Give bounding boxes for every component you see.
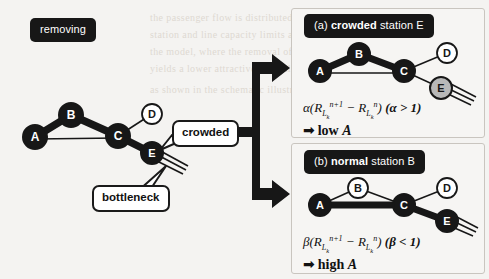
panel-b-node-E: E [436, 210, 458, 232]
panel-b-node-C: C [393, 194, 415, 216]
panel-a-formula-condition: (α > 1) [385, 100, 421, 115]
panel-b-conclusion-prefix: high [318, 257, 344, 272]
panel-b-conclusion: ➡high A [303, 256, 421, 273]
main-edge-spine [35, 115, 152, 153]
branching-arrow-shape [237, 54, 290, 208]
figure-root: the passenger flow is distributed over t… [0, 0, 489, 279]
paren-close: ) [378, 100, 382, 115]
panel-b-node-C-label: C [400, 199, 408, 211]
panel-a-node-B: B [348, 43, 370, 65]
main-node-D: D [142, 104, 162, 124]
panel-b-node-A-label: A [316, 199, 324, 211]
panel-a-graph: A B C D E [309, 43, 476, 105]
panel-a-node-D: D [437, 43, 457, 63]
Lk-sub: Lk [322, 109, 329, 118]
panel-b-node-B-label: B [354, 182, 362, 194]
main-graph: A B C D E [23, 103, 188, 174]
arrow-icon-b: ➡ [303, 256, 315, 272]
panel-a-formula-expression: α(RLkn+1 − RLkn) (α > 1) [303, 100, 421, 115]
R-symbol-b2: R [358, 234, 366, 249]
Lk-sub-b2: Lk [366, 243, 373, 252]
main-node-A-label: A [31, 130, 40, 144]
panel-b-graph: A B C D E [309, 178, 478, 236]
bottleneck-callout: bottleneck [92, 185, 170, 212]
panel-a-node-A-label: A [316, 65, 324, 77]
panel-a-conclusion-var: A [342, 123, 351, 138]
panel-b-edge-spine [320, 205, 447, 221]
arrow-icon: ➡ [303, 122, 315, 138]
main-node-C: C [106, 124, 130, 148]
crowded-callout: crowded [172, 120, 239, 147]
Lk-sub-2: Lk [366, 109, 373, 118]
panel-b-formula-condition: (β < 1) [385, 234, 421, 249]
np1-sup-b: n+1 [329, 234, 342, 243]
R-symbol-b: R [314, 234, 322, 249]
panel-a-node-C-label: C [400, 65, 408, 77]
panel-b-formula: β(RLkn+1 − RLkn) (β < 1) ➡high A [303, 232, 421, 273]
panel-b-node-E-label: E [443, 215, 450, 227]
main-node-B: B [59, 103, 83, 127]
panel-a-conclusion-prefix: low [318, 123, 339, 138]
branching-arrow [237, 54, 290, 208]
main-node-E: E [141, 142, 163, 164]
np1-sup: n+1 [329, 100, 342, 109]
panel-a-node-B-label: B [355, 48, 363, 60]
panel-b-node-B: B [348, 178, 368, 198]
Lk-sub-b: Lk [322, 243, 329, 252]
panel-a-node-E: E [430, 77, 452, 99]
main-node-A: A [23, 125, 47, 149]
panel-b-node-D-label: D [443, 182, 451, 194]
minus-symbol-b: − [346, 234, 355, 249]
panel-a-formula-coefficient: α [303, 100, 310, 115]
panel-a-node-A: A [309, 60, 331, 82]
panel-b-node-A: A [309, 194, 331, 216]
panel-a-node-C: C [393, 60, 415, 82]
panel-b-node-D: D [437, 178, 457, 198]
panel-a-conclusion: ➡low A [303, 122, 421, 139]
panel-b-conclusion-var: A [348, 257, 357, 272]
paren-close-b: ) [377, 234, 381, 249]
main-node-D-label: D [148, 108, 156, 120]
main-node-B-label: B [67, 108, 76, 122]
minus-symbol: − [346, 100, 355, 115]
main-node-C-label: C [114, 129, 123, 143]
panel-a-formula: α(RLkn+1 − RLkn) (α > 1) ➡low A [303, 98, 421, 139]
panel-b-formula-expression: β(RLkn+1 − RLkn) (β < 1) [303, 234, 421, 249]
panel-a-node-D-label: D [443, 47, 451, 59]
R-symbol: R [314, 100, 322, 115]
panel-a-node-E-label: E [437, 82, 444, 94]
R-symbol-2: R [358, 100, 366, 115]
main-node-E-label: E [148, 147, 155, 159]
